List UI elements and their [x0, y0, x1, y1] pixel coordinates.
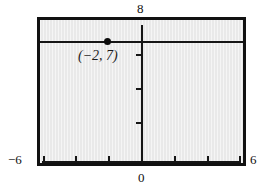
x-axis [42, 161, 241, 163]
point-marker [104, 38, 111, 45]
x-axis-tick [239, 156, 241, 161]
y-axis-tick [136, 122, 142, 124]
x-axis-tick [75, 156, 77, 161]
x-max-label: 6 [250, 152, 257, 168]
y-axis-tick [136, 88, 142, 90]
y-axis [141, 25, 143, 161]
x-axis-tick [207, 156, 209, 161]
x-axis-tick [108, 156, 110, 161]
y-axis-tick [136, 54, 142, 56]
calculator-screen: (−2, 7) [37, 17, 246, 166]
x-axis-tick [43, 156, 45, 161]
x-axis-tick [174, 156, 176, 161]
function-line-y-equals-7 [40, 41, 243, 43]
y-max-label: 8 [137, 1, 144, 17]
point-coordinate-label: (−2, 7) [78, 48, 118, 64]
plot-area: (−2, 7) [40, 20, 243, 163]
origin-label: 0 [138, 170, 145, 186]
graphing-calculator-screenshot: 8 −6 6 0 (− [0, 0, 264, 193]
x-min-label: −6 [8, 152, 22, 168]
